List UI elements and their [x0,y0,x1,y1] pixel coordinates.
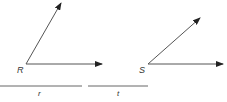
segment-r: r [0,86,82,98]
segment-label-t: t [117,89,120,98]
vertex-label-s: S [139,65,145,75]
segment-label-r: r [38,89,41,98]
vertex-label-r: R [17,65,24,75]
ray-r-diagonal [26,3,61,64]
geometry-diagram: R S r t [0,0,227,102]
diagram-svg: R S r t [0,0,227,102]
angle-s: S [139,18,223,75]
angle-r: R [17,3,102,75]
segment-t: t [88,86,148,98]
ray-s-diagonal [148,18,200,64]
